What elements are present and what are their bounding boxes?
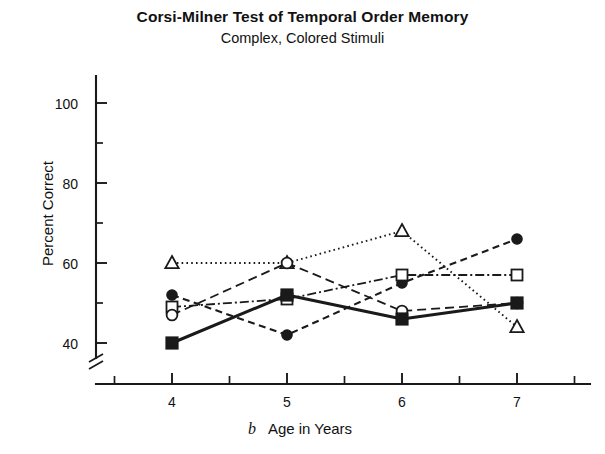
panel-label: b: [248, 420, 256, 437]
y-axis-label: Percent Correct: [39, 109, 56, 319]
x-tick-label-7: 7: [502, 394, 532, 410]
marker-series-filled-square-6: [396, 313, 408, 325]
marker-series-triangle-4: [165, 256, 178, 268]
line-series-triangle: [172, 231, 517, 327]
marker-series-open-circle-4: [167, 310, 178, 321]
y-tick-label-80: 80: [32, 176, 78, 192]
marker-series-filled-circle-4: [167, 290, 177, 300]
marker-series-triangle-7: [510, 320, 523, 332]
y-tick-label-40: 40: [32, 336, 78, 352]
x-tick-label-6: 6: [387, 394, 417, 410]
marker-series-triangle-6: [395, 224, 408, 236]
marker-series-open-square-7: [512, 270, 523, 281]
chart-title: Corsi-Milner Test of Temporal Order Memo…: [0, 8, 605, 26]
x-tick-label-5: 5: [272, 394, 302, 410]
marker-series-filled-square-5: [281, 289, 293, 301]
y-tick-label-60: 60: [32, 256, 78, 272]
marker-series-filled-square-4: [166, 337, 178, 349]
marker-series-open-square-6: [397, 270, 408, 281]
chart-subtitle: Complex, Colored Stimuli: [0, 30, 605, 46]
line-series-filled-square: [172, 295, 517, 343]
marker-series-filled-circle-5: [282, 330, 292, 340]
x-axis-label: Age in Years: [268, 420, 352, 437]
x-tick-label-4: 4: [157, 394, 187, 410]
marker-series-open-circle-5: [282, 258, 293, 269]
data-series-layer: [172, 231, 517, 343]
y-tick-label-100: 100: [32, 96, 78, 112]
x-axis-label-row: bAge in Years: [150, 420, 450, 438]
plot-area: [0, 0, 605, 454]
marker-series-filled-square-7: [511, 297, 523, 309]
marker-series-filled-circle-7: [512, 234, 522, 244]
chart-figure: Corsi-Milner Test of Temporal Order Memo…: [0, 0, 605, 454]
